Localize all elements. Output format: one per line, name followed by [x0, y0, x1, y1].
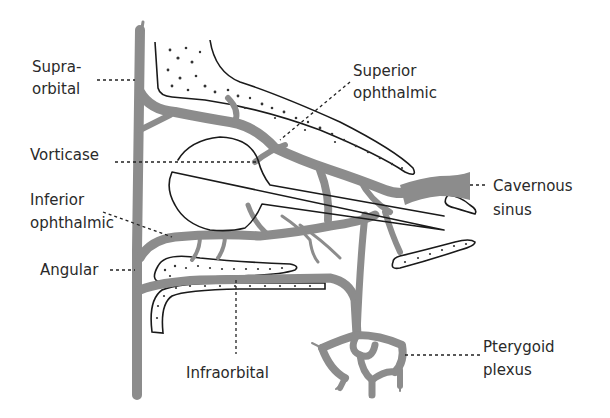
label-infraorbital: Infraorbital — [186, 364, 269, 382]
sphenoid-bone-fragment — [392, 240, 475, 268]
label-pterygoid-plexus-line1: Pterygoid — [483, 338, 555, 356]
label-vorticose: Vorticase — [30, 146, 99, 164]
orbital-venous-diagram: Supra- orbital Superior ophthalmic Vorti… — [0, 0, 610, 418]
label-cavernous-sinus-line1: Cavernous — [493, 177, 573, 195]
label-pterygoid-plexus-line2: plexus — [483, 361, 532, 379]
label-inferior-ophthalmic-line1: Inferior — [30, 191, 85, 209]
maxilla-bone — [151, 283, 325, 333]
label-cavernous-sinus-line2: sinus — [493, 201, 532, 219]
label-supraorbital-line1: Supra- — [32, 58, 81, 76]
label-supraorbital-line2: orbital — [32, 80, 80, 98]
label-inferior-ophthalmic-line2: ophthalmic — [30, 214, 114, 232]
label-superior-ophthalmic-line1: Superior — [353, 62, 417, 80]
label-superior-ophthalmic-line2: ophthalmic — [353, 84, 437, 102]
eyeball-and-optic-nerve — [169, 137, 444, 231]
label-angular: Angular — [40, 261, 99, 279]
